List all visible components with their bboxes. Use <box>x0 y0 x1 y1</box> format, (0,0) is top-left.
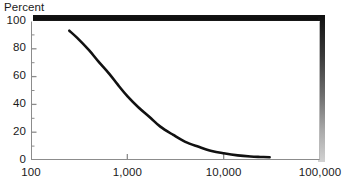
y-tick-label: 0 <box>0 153 26 165</box>
y-tick-label: 80 <box>0 41 26 53</box>
y-axis-title: Percent <box>4 1 44 13</box>
x-tick-label: 10,000 <box>206 166 242 178</box>
y-tick-label: 20 <box>0 125 26 137</box>
x-tick-label: 100 <box>21 166 41 178</box>
y-tick-label: 100 <box>0 14 26 26</box>
plot-canvas <box>31 21 320 160</box>
chart-container: Percent 100806040200 1001,00010,000100,0… <box>0 0 345 193</box>
x-tick-label: 1,000 <box>113 166 142 178</box>
y-tick-label: 60 <box>0 69 26 81</box>
x-tick-label: 100,000 <box>299 166 341 178</box>
data-curve <box>69 31 269 157</box>
y-tick-label: 40 <box>0 97 26 109</box>
